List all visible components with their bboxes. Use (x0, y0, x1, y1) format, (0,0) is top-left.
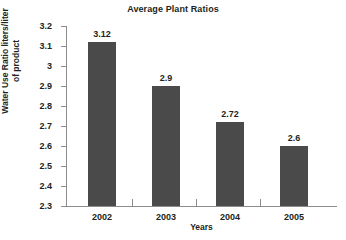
x-category-label-2004: 2004 (200, 212, 260, 222)
plot-area: 3.2 3.1 3 2.9 2.8 2.7 2.6 2.5 2.4 2.3 3.… (66, 26, 337, 206)
y-tick-label: 3.2 (12, 22, 52, 31)
x-tick-mark (132, 199, 133, 207)
bar-chart: Average Plant Ratios Water Use Ratio lit… (0, 0, 346, 240)
y-tick-label: 3 (12, 62, 52, 71)
y-tick-mark (61, 66, 67, 67)
y-tick-mark (61, 146, 67, 147)
y-tick-mark (61, 106, 67, 107)
x-category-label-2002: 2002 (72, 212, 132, 222)
y-tick-label: 2.9 (12, 82, 52, 91)
bar-value-2002: 3.12 (79, 29, 125, 39)
y-axis-line (66, 26, 67, 206)
x-category-label-2005: 2005 (264, 212, 324, 222)
x-axis-title: Years (66, 222, 337, 232)
y-tick-mark (61, 186, 67, 187)
y-tick-mark (61, 206, 67, 207)
y-tick-mark (61, 46, 67, 47)
bar-2003[interactable] (152, 86, 180, 206)
x-tick-mark (260, 199, 261, 207)
y-tick-mark (61, 26, 67, 27)
chart-title: Average Plant Ratios (0, 4, 346, 14)
y-axis-title-line-1: Water Use Ratio liters/liter (0, 8, 11, 114)
y-tick-mark (61, 166, 67, 167)
y-tick-mark (61, 126, 67, 127)
bar-2004[interactable] (216, 122, 244, 206)
bar-value-2004: 2.72 (207, 109, 253, 119)
y-tick-label: 2.5 (12, 162, 52, 171)
y-tick-label: 2.4 (12, 182, 52, 191)
bar-2002[interactable] (88, 42, 116, 206)
x-category-label-2003: 2003 (136, 212, 196, 222)
y-tick-mark (61, 86, 67, 87)
y-tick-label: 2.7 (12, 122, 52, 131)
y-tick-label: 3.1 (12, 42, 52, 51)
bar-value-2005: 2.6 (271, 133, 317, 143)
x-tick-mark (196, 199, 197, 207)
y-tick-label: 2.8 (12, 102, 52, 111)
x-axis-line (66, 206, 337, 207)
y-tick-label: 2.6 (12, 142, 52, 151)
bar-value-2003: 2.9 (143, 73, 189, 83)
bar-2005[interactable] (280, 146, 308, 206)
y-tick-label: 2.3 (12, 202, 52, 211)
